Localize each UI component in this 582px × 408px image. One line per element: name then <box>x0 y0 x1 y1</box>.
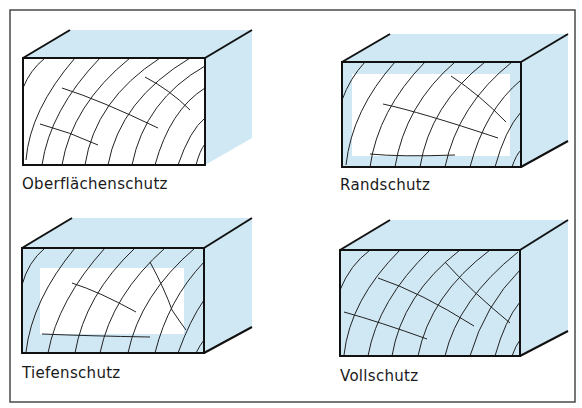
timber-front-face <box>23 58 205 165</box>
label-full-protection: Vollschutz <box>340 369 418 384</box>
label-edge-protection: Randschutz <box>340 178 430 193</box>
untreated-core <box>40 268 184 334</box>
label-deep-protection: Tiefenschutz <box>22 366 121 381</box>
panel-full-protection <box>340 220 568 356</box>
panel-deep-protection <box>22 218 252 353</box>
panel-edge-protection <box>342 34 568 167</box>
timber-front-face <box>340 250 520 356</box>
wood-protection-diagram: Oberflächenschutz Randschutz Tiefenschut… <box>0 0 582 408</box>
diagram-canvas <box>0 0 582 408</box>
label-surface-protection: Oberflächenschutz <box>22 177 168 192</box>
panel-surface-protection <box>23 30 252 165</box>
